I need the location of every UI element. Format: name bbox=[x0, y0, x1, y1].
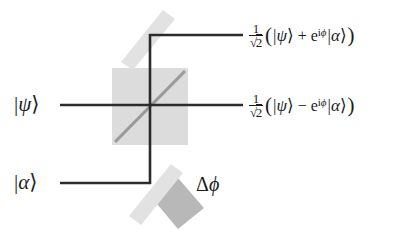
operator-sign: − bbox=[295, 98, 310, 114]
fraction-numerator: 1 bbox=[251, 22, 262, 35]
operator-sign: + bbox=[295, 28, 310, 44]
prefactor-one-over-sqrt-two: 1 √2 bbox=[249, 92, 263, 120]
exponential-factor: eiϕ bbox=[311, 28, 327, 44]
output-ket-psi: |ψ⟩ bbox=[273, 27, 294, 44]
fraction-denominator: √2 bbox=[249, 35, 263, 49]
ket-symbol: α bbox=[18, 170, 29, 194]
ket-angle-right: ⟩ bbox=[287, 26, 294, 45]
output-expression-minus: 1 √2 ( |ψ⟩ − eiϕ |α⟩ ) bbox=[249, 92, 355, 120]
phase-symbol: ϕ bbox=[321, 96, 327, 108]
output-expression-plus: 1 √2 ( |ψ⟩ + eiϕ |α⟩ ) bbox=[249, 22, 355, 50]
ket-symbol: ψ bbox=[276, 26, 287, 45]
output-ket-alpha: |α⟩ bbox=[328, 97, 347, 114]
exponential-factor: eiϕ bbox=[311, 98, 327, 114]
fraction-numerator: 1 bbox=[251, 92, 262, 105]
ket-symbol: ψ bbox=[18, 92, 31, 116]
input-label-alpha: |α⟩ bbox=[14, 172, 37, 193]
ket-angle-right: ⟩ bbox=[31, 92, 39, 116]
exponential-base: e bbox=[311, 27, 318, 44]
figure-canvas: |ψ⟩ |α⟩ 1 √2 ( |ψ⟩ + eiϕ |α⟩ ) 1 √2 ( |ψ… bbox=[0, 0, 409, 233]
ket-symbol: α bbox=[331, 96, 340, 115]
input-label-psi: |ψ⟩ bbox=[14, 94, 39, 115]
output-ket-alpha: |α⟩ bbox=[328, 27, 347, 44]
phase-symbol: ϕ bbox=[321, 26, 327, 38]
fraction-denominator: √2 bbox=[249, 105, 263, 119]
ket-angle-right: ⟩ bbox=[29, 170, 37, 194]
ket-symbol: ψ bbox=[276, 96, 287, 115]
close-paren: ) bbox=[348, 95, 355, 116]
exponential-exponent: iϕ bbox=[318, 96, 327, 108]
delta-symbol: Δ bbox=[196, 173, 209, 195]
ket-symbol: α bbox=[331, 26, 340, 45]
radicand: 2 bbox=[256, 34, 262, 50]
mirror-top bbox=[121, 10, 175, 70]
ket-angle-right: ⟩ bbox=[340, 96, 347, 115]
prefactor-one-over-sqrt-two: 1 √2 bbox=[249, 22, 263, 50]
radicand: 2 bbox=[256, 104, 262, 120]
ket-angle-right: ⟩ bbox=[287, 96, 294, 115]
exponential-exponent: iϕ bbox=[318, 26, 327, 38]
phase-shift-label: Δϕ bbox=[196, 174, 219, 194]
mirror-top-bar-icon bbox=[121, 10, 175, 70]
open-paren: ( bbox=[265, 95, 272, 116]
exponential-base: e bbox=[311, 97, 318, 114]
open-paren: ( bbox=[265, 25, 272, 46]
phi-symbol: ϕ bbox=[209, 173, 219, 195]
ket-angle-right: ⟩ bbox=[340, 26, 347, 45]
mirror-bottom bbox=[129, 164, 204, 229]
close-paren: ) bbox=[348, 25, 355, 46]
output-ket-psi: |ψ⟩ bbox=[273, 97, 294, 114]
